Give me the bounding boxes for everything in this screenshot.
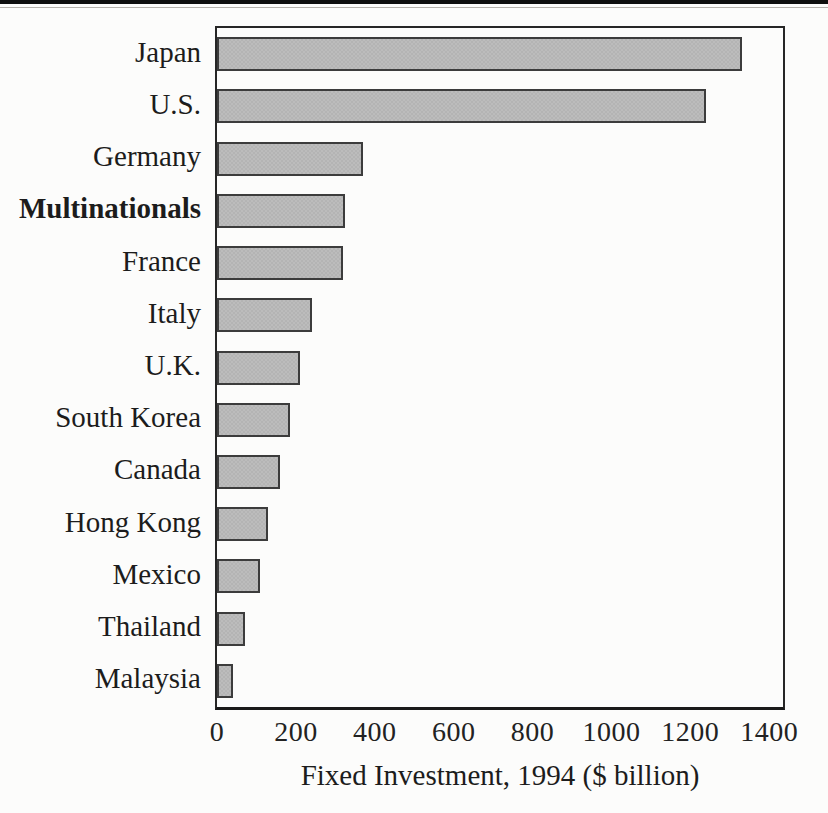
bar-row xyxy=(217,80,783,132)
bar-japan xyxy=(217,37,742,71)
bar-row xyxy=(217,237,783,289)
x-axis-ticks: 0200400600800100012001400 xyxy=(217,718,783,750)
bar-row xyxy=(217,394,783,446)
x-tick-400: 400 xyxy=(353,718,397,746)
x-tick-1400: 1400 xyxy=(740,718,798,746)
bar-thailand xyxy=(217,612,245,646)
bar-south-korea xyxy=(217,403,290,437)
y-label-row: Germany xyxy=(0,130,201,182)
bar-row xyxy=(217,498,783,550)
x-tick-600: 600 xyxy=(432,718,476,746)
y-axis-label-germany: Germany xyxy=(93,142,201,171)
bar-mexico xyxy=(217,559,260,593)
y-axis-label-france: France xyxy=(122,247,201,276)
x-axis-title: Fixed Investment, 1994 ($ billion) xyxy=(301,759,700,791)
y-axis-label-u-k: U.K. xyxy=(145,351,201,380)
y-axis-labels: JapanU.S.GermanyMultinationalsFranceItal… xyxy=(0,26,201,705)
bar-malaysia xyxy=(217,664,233,698)
bar-canada xyxy=(217,455,280,489)
bar-row xyxy=(217,289,783,341)
y-label-row: South Korea xyxy=(0,392,201,444)
figure-page: JapanU.S.GermanyMultinationalsFranceItal… xyxy=(0,0,828,813)
x-tick-1000: 1000 xyxy=(582,718,640,746)
y-label-row: Italy xyxy=(0,287,201,339)
y-label-row: Malaysia xyxy=(0,653,201,705)
y-label-row: Multinationals xyxy=(0,183,201,235)
y-label-row: Thailand xyxy=(0,601,201,653)
y-label-row: France xyxy=(0,235,201,287)
y-axis-label-multinationals: Multinationals xyxy=(19,194,201,223)
bar-row xyxy=(217,655,783,707)
y-axis-label-hong-kong: Hong Kong xyxy=(65,508,201,537)
bar-u-s xyxy=(217,89,706,123)
y-axis-label-thailand: Thailand xyxy=(98,612,201,641)
x-tick-200: 200 xyxy=(274,718,318,746)
x-axis-title-wrap: Fixed Investment, 1994 ($ billion) xyxy=(217,758,783,793)
x-tick-800: 800 xyxy=(511,718,555,746)
bar-italy xyxy=(217,298,312,332)
y-axis-label-japan: Japan xyxy=(135,38,201,67)
bar-hong-kong xyxy=(217,507,268,541)
y-axis-label-u-s: U.S. xyxy=(149,90,201,119)
y-label-row: Mexico xyxy=(0,548,201,600)
bar-row xyxy=(217,550,783,602)
y-axis-label-italy: Italy xyxy=(148,299,201,328)
bar-u-k xyxy=(217,351,300,385)
bar-row xyxy=(217,28,783,80)
y-axis-label-canada: Canada xyxy=(114,455,201,484)
top-rule-shadow xyxy=(0,7,828,8)
y-axis-label-mexico: Mexico xyxy=(112,560,201,589)
bar-multinationals xyxy=(217,194,345,228)
bar-row xyxy=(217,446,783,498)
bar-germany xyxy=(217,142,363,176)
x-tick-0: 0 xyxy=(210,718,225,746)
top-rule xyxy=(0,0,828,4)
bar-row xyxy=(217,185,783,237)
bar-row xyxy=(217,341,783,393)
x-tick-1200: 1200 xyxy=(661,718,719,746)
bar-france xyxy=(217,246,343,280)
y-label-row: Japan xyxy=(0,26,201,78)
plot-area xyxy=(215,26,785,710)
y-label-row: U.S. xyxy=(0,78,201,130)
y-label-row: Hong Kong xyxy=(0,496,201,548)
bar-row xyxy=(217,132,783,184)
bar-row xyxy=(217,603,783,655)
plot-rows xyxy=(217,28,783,707)
y-axis-label-south-korea: South Korea xyxy=(55,403,201,432)
y-label-row: U.K. xyxy=(0,339,201,391)
y-axis-label-malaysia: Malaysia xyxy=(95,664,201,693)
y-label-row: Canada xyxy=(0,444,201,496)
